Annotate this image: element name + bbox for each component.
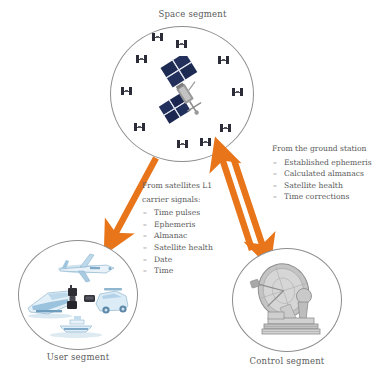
small-satellite-icon (220, 124, 231, 132)
downlink-info-block: From satellites L1 carrier signals: –Tim… (142, 180, 247, 277)
gps-satellite-icon (146, 56, 218, 126)
list-item: –Time (142, 265, 247, 277)
ship-icon (50, 316, 102, 338)
user-segment-label: User segment (18, 352, 138, 362)
list-item: –Date (142, 254, 247, 266)
small-satellite-icon (134, 123, 145, 131)
list-item-label: Satellite health (284, 181, 343, 190)
list-item: –Almanac (142, 230, 247, 242)
uplink-info-block: From the ground station –Established eph… (272, 143, 384, 203)
bullet-dash: – (143, 265, 147, 277)
handheld-receiver-icon (67, 285, 95, 309)
bullet-dash: – (273, 180, 277, 192)
downlink-heading-line2: carrier signals: (142, 194, 247, 206)
airplane-icon (58, 254, 114, 282)
small-satellite-icon (218, 56, 229, 64)
parabolic-dish-antenna-icon (242, 256, 334, 346)
list-item-label: Almanac (154, 231, 187, 240)
bullet-dash: – (273, 191, 277, 203)
downlink-list: –Time pulses –Ephemeris –Almanac –Satell… (142, 207, 247, 277)
list-item: –Satellite health (272, 180, 384, 192)
list-item-label: Calculated almanacs (284, 169, 364, 178)
bullet-dash: – (143, 254, 147, 266)
small-satellite-icon (176, 40, 187, 48)
small-satellite-icon (152, 33, 163, 41)
downlink-heading-line1: From satellites L1 (142, 180, 247, 192)
list-item: –Established ephemeris (272, 157, 384, 169)
small-satellite-icon (177, 140, 188, 148)
control-segment-label: Control segment (228, 356, 346, 366)
bullet-dash: – (143, 242, 147, 254)
list-item-label: Ephemeris (154, 220, 195, 229)
list-item-label: Satellite health (154, 243, 213, 252)
list-item: –Satellite health (142, 242, 247, 254)
list-item: –Calculated almanacs (272, 168, 384, 180)
uplink-list: –Established ephemeris –Calculated alman… (272, 157, 384, 203)
small-satellite-icon (200, 138, 211, 146)
small-satellite-icon (121, 87, 132, 95)
small-satellite-icon (232, 88, 243, 96)
space-segment-label: Space segment (0, 9, 385, 19)
list-item: –Time corrections (272, 191, 384, 203)
car-icon (96, 288, 128, 314)
bullet-dash: – (273, 168, 277, 180)
user-segment-icons (24, 246, 132, 346)
list-item-label: Time pulses (154, 208, 200, 217)
list-item-label: Established ephemeris (284, 158, 372, 167)
list-item-label: Time corrections (284, 192, 349, 201)
diagram-canvas: Space segment (0, 0, 385, 379)
list-item: –Time pulses (142, 207, 247, 219)
list-item-label: Date (154, 255, 172, 264)
uplink-heading: From the ground station (272, 143, 384, 155)
list-item-label: Time (154, 266, 173, 275)
list-item: –Ephemeris (142, 219, 247, 231)
bullet-dash: – (273, 157, 277, 169)
bullet-dash: – (143, 230, 147, 242)
bullet-dash: – (143, 219, 147, 231)
bullet-dash: – (143, 207, 147, 219)
